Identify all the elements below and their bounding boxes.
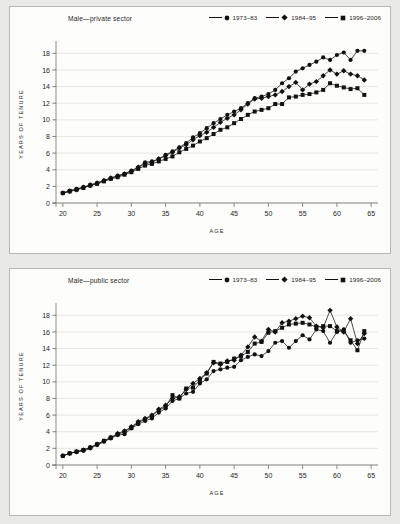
svg-text:14: 14 xyxy=(42,345,50,352)
svg-text:16: 16 xyxy=(42,329,50,336)
svg-text:4: 4 xyxy=(46,428,50,435)
svg-text:40: 40 xyxy=(196,210,204,217)
svg-text:2: 2 xyxy=(46,183,50,190)
svg-text:25: 25 xyxy=(93,472,101,479)
svg-text:20: 20 xyxy=(59,472,67,479)
svg-text:60: 60 xyxy=(333,472,341,479)
svg-text:18: 18 xyxy=(42,50,50,57)
svg-text:14: 14 xyxy=(42,83,50,90)
svg-text:40: 40 xyxy=(196,472,204,479)
svg-text:0: 0 xyxy=(46,200,50,207)
svg-text:45: 45 xyxy=(230,210,238,217)
svg-text:45: 45 xyxy=(230,472,238,479)
svg-text:30: 30 xyxy=(127,472,135,479)
chart-panel-private-sector: Male—private sector 1973–83 1984–95 1996… xyxy=(9,6,391,254)
svg-text:18: 18 xyxy=(42,312,50,319)
svg-text:55: 55 xyxy=(299,210,307,217)
plot-area-private: 02468101214161820253035404550556065AGEYE… xyxy=(10,7,392,255)
svg-text:65: 65 xyxy=(367,210,375,217)
chart-panel-public-sector: Male—public sector 1973–83 1984–95 1996–… xyxy=(9,268,391,516)
svg-text:6: 6 xyxy=(46,412,50,419)
svg-text:30: 30 xyxy=(127,210,135,217)
svg-text:8: 8 xyxy=(46,395,50,402)
svg-text:AGE: AGE xyxy=(209,228,224,234)
svg-text:55: 55 xyxy=(299,472,307,479)
svg-text:6: 6 xyxy=(46,150,50,157)
svg-text:35: 35 xyxy=(162,210,170,217)
svg-text:50: 50 xyxy=(264,210,272,217)
svg-text:10: 10 xyxy=(42,116,50,123)
svg-text:25: 25 xyxy=(93,210,101,217)
svg-text:0: 0 xyxy=(46,462,50,469)
svg-text:16: 16 xyxy=(42,67,50,74)
chart-svg-private: 02468101214161820253035404550556065AGEYE… xyxy=(10,7,392,255)
svg-text:YEARS OF TENURE: YEARS OF TENURE xyxy=(18,89,24,158)
svg-text:65: 65 xyxy=(367,472,375,479)
svg-text:35: 35 xyxy=(162,472,170,479)
svg-text:AGE: AGE xyxy=(209,490,224,496)
charts-page: Male—private sector 1973–83 1984–95 1996… xyxy=(0,0,400,524)
svg-text:8: 8 xyxy=(46,133,50,140)
svg-text:12: 12 xyxy=(42,362,50,369)
svg-text:60: 60 xyxy=(333,210,341,217)
svg-text:4: 4 xyxy=(46,166,50,173)
svg-text:12: 12 xyxy=(42,100,50,107)
svg-text:50: 50 xyxy=(264,472,272,479)
chart-svg-public: 02468101214161820253035404550556065AGEYE… xyxy=(10,269,392,517)
svg-text:20: 20 xyxy=(59,210,67,217)
plot-area-public: 02468101214161820253035404550556065AGEYE… xyxy=(10,269,392,517)
svg-text:YEARS OF TENURE: YEARS OF TENURE xyxy=(18,351,24,420)
svg-text:10: 10 xyxy=(42,378,50,385)
svg-text:2: 2 xyxy=(46,445,50,452)
